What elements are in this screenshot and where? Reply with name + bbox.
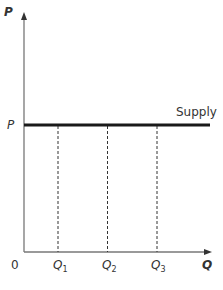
supply-label: Supply	[176, 106, 217, 118]
q3-label: Q3	[151, 259, 166, 274]
x-axis-label: Q	[202, 259, 212, 271]
chart-canvas	[0, 0, 223, 290]
origin-label: 0	[11, 259, 19, 271]
price-label: P	[7, 119, 14, 131]
q2-label: Q2	[102, 259, 117, 274]
x-axis-arrow-icon	[204, 249, 212, 255]
y-axis-label: P	[4, 6, 13, 18]
q1-label: Q1	[53, 259, 68, 274]
y-axis-arrow-icon	[21, 12, 27, 20]
